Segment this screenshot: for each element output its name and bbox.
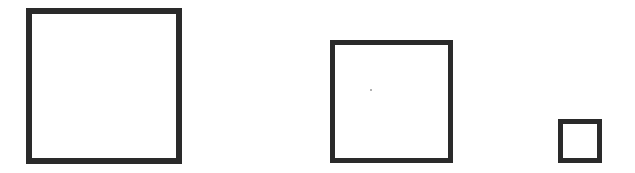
large-square [26,8,182,164]
center-dot [370,89,372,91]
medium-square [330,40,453,163]
small-square [558,119,602,163]
